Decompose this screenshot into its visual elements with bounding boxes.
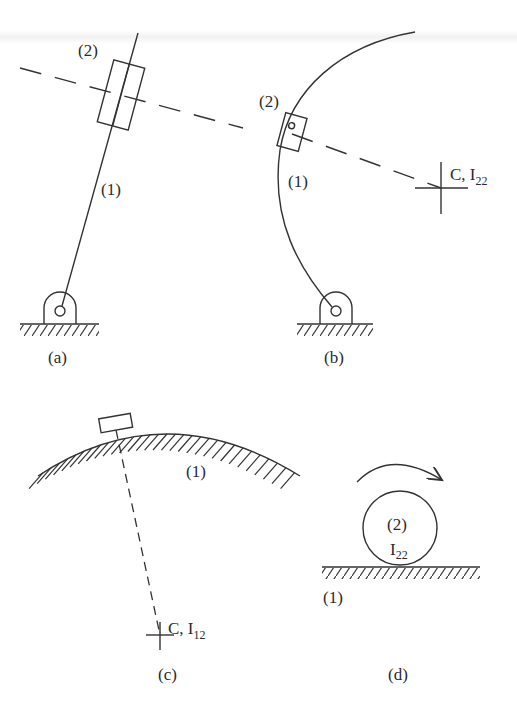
ground-hatch xyxy=(297,325,373,336)
panel-a: (2) (1) (a) xyxy=(20,33,243,367)
curved-link-1 xyxy=(278,32,415,307)
pin-support xyxy=(320,292,352,324)
wheel-center-label: I22 xyxy=(390,540,408,562)
caption-d: (d) xyxy=(388,665,408,684)
caption-c: (c) xyxy=(158,665,177,684)
ground-hatch xyxy=(20,325,99,336)
ground-label: (1) xyxy=(323,588,343,607)
sliding-block xyxy=(99,413,133,432)
slider-2 xyxy=(97,60,144,130)
dashed-radius xyxy=(116,430,160,635)
pin-support xyxy=(44,292,76,324)
surface-label: (1) xyxy=(186,462,206,481)
caption-b: (b) xyxy=(324,348,344,367)
curved-surface-1 xyxy=(38,434,300,476)
slider-label: (2) xyxy=(259,92,279,111)
ground-hatch xyxy=(322,568,480,579)
center-label: C, I22 xyxy=(450,165,488,188)
link-label: (1) xyxy=(288,172,308,191)
slider-label: (2) xyxy=(78,41,98,60)
kinematics-figure: (2) (1) (a) C, I22 (2) (1) (b) xyxy=(0,0,517,705)
surface-hatch xyxy=(48,480,66,484)
pin-joint xyxy=(331,306,341,316)
panel-b: C, I22 (2) (1) (b) xyxy=(259,32,488,367)
rotation-arrow-icon xyxy=(357,464,442,482)
dashed-radius xyxy=(292,134,441,188)
center-label: C, I12 xyxy=(168,619,206,642)
panel-c: C, I12 (1) (c) xyxy=(29,413,300,684)
wheel-label: (2) xyxy=(387,515,407,534)
surface-hatch-lines xyxy=(29,434,295,489)
panel-d: (2) I22 (1) (d) xyxy=(322,464,480,684)
pin-joint xyxy=(55,306,65,316)
link-label: (1) xyxy=(101,180,121,199)
caption-a: (a) xyxy=(48,348,67,367)
